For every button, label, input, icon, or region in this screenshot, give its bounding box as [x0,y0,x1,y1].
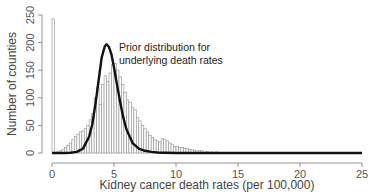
histogram-bar [109,73,111,153]
histogram-bar [119,77,121,153]
y-tick-label: 150 [24,61,36,79]
y-axis-title: Number of counties [5,32,19,136]
histogram-bar [104,76,106,153]
y-tick-label: 250 [24,6,36,24]
histogram-bar [99,104,101,153]
y-tick-label: 50 [24,119,36,131]
y-tick-label: 0 [24,150,36,156]
histogram-bar [169,143,171,153]
histogram-bar [72,140,74,153]
curve-annotation-line1: Prior distribution for [119,41,211,53]
curve-annotation-line2: underlying death rates [119,54,223,66]
histogram-bar [107,81,109,153]
histogram-chart: 050100150200250 0510152025 Number of cou… [0,0,374,196]
x-tick-label: 0 [49,168,55,180]
histogram-bar [52,19,54,153]
histogram-bar [171,144,173,153]
y-tick-label: 200 [24,33,36,51]
histogram-bars [52,19,238,153]
x-axis-title: Kidney cancer death rates (per 100,000) [100,178,315,192]
histogram-bar [74,136,76,153]
histogram-bar [146,132,148,153]
y-tick-label: 100 [24,89,36,107]
y-axis: 050100150200250 [24,6,42,156]
histogram-bar [112,65,114,153]
histogram-bar [166,141,168,153]
histogram-bar [151,138,153,153]
histogram-bar [131,108,133,153]
histogram-bar [161,139,163,153]
histogram-bar [129,102,131,153]
x-tick-label: 25 [356,168,368,180]
histogram-bar [102,85,104,153]
histogram-bar [164,140,166,153]
